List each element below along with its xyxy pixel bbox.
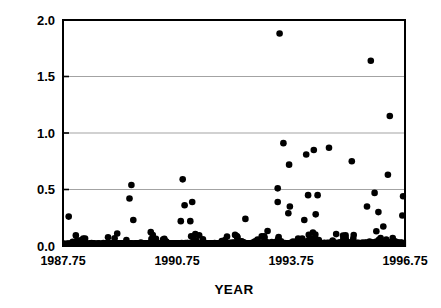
chart-figure: FLOW (M3/SEC-M2) 0.00.51.01.52.0 1987.75… [0, 0, 441, 308]
data-point [326, 144, 333, 151]
data-point [350, 232, 357, 239]
data-point [301, 217, 308, 224]
x-tick-label: 1987.75 [40, 254, 85, 268]
data-point [364, 203, 371, 210]
data-point [349, 158, 356, 165]
x-axis-label: YEAR [63, 282, 405, 297]
data-point [224, 233, 231, 240]
y-tick-label: 1.5 [37, 69, 55, 84]
data-point [314, 192, 321, 199]
data-point [65, 213, 72, 220]
y-tick-label: 2.0 [37, 13, 55, 28]
x-tick-label: 1996.75 [382, 254, 427, 268]
data-point [311, 147, 318, 154]
y-tick-label: 0.0 [37, 239, 55, 254]
data-point [114, 230, 121, 237]
data-point [373, 228, 380, 235]
data-point [179, 176, 186, 183]
data-point [274, 185, 281, 192]
data-point [305, 192, 312, 199]
data-points-layer [60, 30, 409, 248]
data-point [189, 199, 196, 206]
x-tick-label: 1990.75 [154, 254, 199, 268]
data-point [387, 113, 394, 120]
y-tick-label: 0.5 [37, 182, 55, 197]
data-point [385, 172, 392, 179]
data-point [181, 202, 188, 209]
data-point [128, 182, 135, 189]
data-point [333, 231, 340, 238]
data-point [375, 209, 382, 216]
data-point [380, 223, 387, 230]
y-tick-label: 1.0 [37, 126, 55, 141]
data-point [178, 218, 185, 225]
x-tick-label: 1993.75 [268, 254, 313, 268]
data-point [105, 234, 112, 241]
data-point [126, 195, 133, 202]
grid-lines [63, 77, 405, 190]
data-point [274, 199, 281, 206]
data-point [285, 210, 292, 217]
data-point [276, 30, 283, 37]
data-point [187, 218, 194, 225]
data-point [287, 203, 294, 210]
data-point [368, 57, 375, 64]
data-point [303, 151, 310, 158]
data-point [286, 161, 293, 168]
data-point [312, 211, 319, 218]
data-point [264, 228, 271, 235]
data-point [280, 140, 287, 147]
scatter-plot: 0.00.51.01.52.0 1987.751990.751993.75199… [0, 0, 441, 308]
data-point [130, 217, 137, 224]
data-point [371, 190, 378, 197]
mask-top [0, 0, 441, 20]
data-point [242, 216, 249, 223]
